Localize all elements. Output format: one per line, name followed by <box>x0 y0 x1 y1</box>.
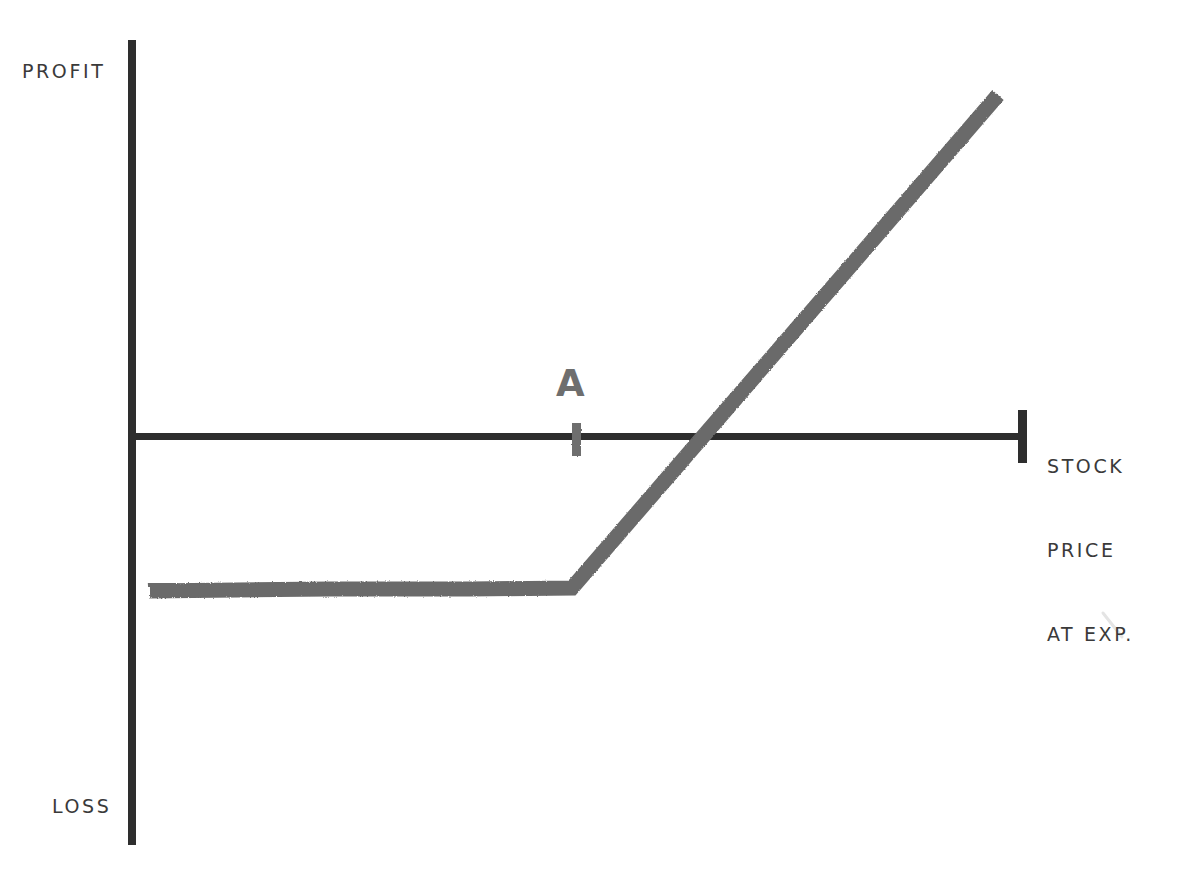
strike-price-tick <box>572 423 581 456</box>
payoff-line <box>150 95 998 591</box>
strike-tick-group <box>572 423 581 456</box>
strike-price-label: A <box>556 364 585 404</box>
x-axis-label-line-3: AT EXP. <box>1047 620 1134 648</box>
payoff-diagram: PROFIT LOSS STOCK PRICE AT EXP. A <box>0 0 1203 883</box>
payoff-line-left-tail <box>148 584 176 586</box>
chart-canvas <box>0 0 1203 883</box>
y-axis-top-label: PROFIT <box>22 58 105 85</box>
x-axis-label: STOCK PRICE AT EXP. <box>1047 396 1134 704</box>
x-axis-label-line-2: PRICE <box>1047 536 1134 564</box>
y-axis-line <box>128 40 136 845</box>
x-axis-label-line-1: STOCK <box>1047 452 1134 480</box>
x-axis-end-cap <box>1018 410 1027 463</box>
payoff-line-group <box>148 95 998 591</box>
y-axis-bottom-label: LOSS <box>52 793 111 820</box>
